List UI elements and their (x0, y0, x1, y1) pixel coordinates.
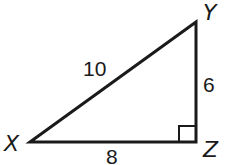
vertex-label-z: Z (202, 137, 219, 162)
right-angle-marker (179, 126, 196, 142)
triangle-diagram: Y X Z 10 6 8 (0, 0, 228, 165)
side-label-xy: 10 (83, 57, 106, 80)
side-label-xz: 8 (106, 145, 118, 165)
triangle-xyz (30, 22, 196, 142)
vertex-label-y: Y (203, 0, 218, 25)
vertex-label-x: X (3, 131, 20, 156)
side-label-yz: 6 (203, 73, 215, 96)
